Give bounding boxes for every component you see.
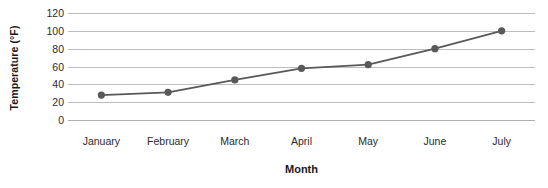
y-axis-title: Temperature (°F): [0, 0, 28, 135]
x-axis-tick-label: March: [220, 136, 249, 147]
data-point-marker: [231, 76, 238, 83]
x-axis-title: Month: [68, 163, 535, 175]
x-axis-tick-label: January: [83, 136, 120, 147]
data-point-marker: [98, 91, 105, 98]
data-series-svg: [68, 13, 535, 120]
data-point-marker: [498, 27, 505, 34]
x-axis-tick-label: February: [147, 136, 189, 147]
y-axis-tick-label: 120: [30, 8, 64, 19]
y-axis-tick-label: 100: [30, 26, 64, 37]
x-axis-tick-label: June: [424, 136, 447, 147]
data-line: [101, 31, 501, 95]
x-axis-tick-label: July: [492, 136, 511, 147]
line-chart: Temperature (°F) 020406080100120 January…: [0, 0, 548, 188]
x-axis-tick-label: May: [358, 136, 378, 147]
y-axis-tick-label: 80: [30, 43, 64, 54]
x-axis-tick-label: April: [291, 136, 312, 147]
y-axis-tick-label: 20: [30, 97, 64, 108]
plot-area: [68, 13, 535, 120]
y-axis-tick-label: 40: [30, 79, 64, 90]
data-point-marker: [298, 65, 305, 72]
x-axis-baseline: [68, 120, 535, 121]
data-point-marker: [431, 45, 438, 52]
y-axis-tick-labels: 020406080100120: [30, 0, 64, 135]
y-axis-tick-label: 0: [30, 115, 64, 126]
data-point-marker: [365, 61, 372, 68]
y-axis-title-label: Temperature (°F): [8, 25, 20, 110]
data-point-marker: [164, 89, 171, 96]
y-axis-tick-label: 60: [30, 61, 64, 72]
x-axis-tick-labels: JanuaryFebruaryMarchAprilMayJuneJuly: [68, 136, 535, 154]
